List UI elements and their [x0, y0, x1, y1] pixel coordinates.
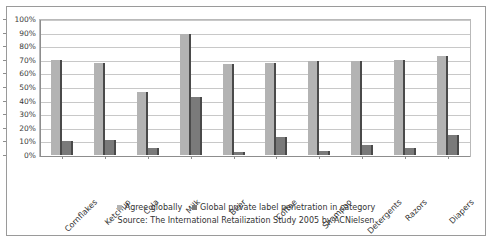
y-axis-tick-label: 60%	[6, 70, 36, 77]
bar-group	[351, 21, 373, 155]
legend-swatch-series2	[192, 205, 197, 210]
y-axis-tick-mark	[3, 73, 6, 74]
bar-shadow-edge	[243, 152, 245, 155]
bar-group	[394, 21, 416, 155]
bar-beer-series2	[234, 152, 245, 155]
bar-shadow-edge	[371, 145, 373, 155]
bar-milk-series2	[191, 97, 202, 155]
y-axis-tick-mark	[3, 87, 6, 88]
bar-cornflakes-series1	[51, 60, 62, 155]
plot-area-wrapper: 100%90%80%70%60%50%40%30%20%10%0%	[39, 19, 471, 157]
bar-face	[394, 60, 403, 155]
y-axis-tick-label: 40%	[6, 98, 36, 105]
bar-group	[180, 21, 202, 155]
bar-coffee-series2	[276, 137, 287, 155]
legend-item: Global private label penetration in cate…	[192, 203, 375, 212]
bar-milk-series1	[180, 34, 191, 155]
bar-face	[308, 61, 317, 155]
legend-item: Agree globally	[117, 203, 182, 212]
plot-area	[39, 19, 471, 157]
bar-shadow-edge	[285, 137, 287, 155]
y-axis-tick-label: 10%	[6, 138, 36, 145]
bar-group	[94, 21, 116, 155]
bar-shadow-edge	[114, 140, 116, 155]
bar-shadow-edge	[317, 61, 319, 155]
bar-shadow-edge	[71, 141, 73, 155]
bar-detergents-series2	[362, 145, 373, 155]
bars-group	[41, 21, 469, 155]
bar-group	[51, 21, 73, 155]
bar-face	[234, 152, 243, 155]
bar-group	[265, 21, 287, 155]
y-axis-tick-mark	[3, 128, 6, 129]
bar-diapers-series1	[437, 56, 448, 155]
bar-face	[362, 145, 371, 155]
y-axis-tick-label: 70%	[6, 57, 36, 64]
bar-face	[448, 135, 457, 155]
y-axis-tick-mark	[3, 60, 6, 61]
bar-shadow-edge	[360, 61, 362, 155]
bar-shampoo-series2	[319, 151, 330, 155]
bar-face	[265, 63, 274, 155]
legend-label: Global private label penetration in cate…	[200, 203, 375, 212]
legend-swatch-series1	[117, 205, 122, 210]
y-axis-tick-label: 20%	[6, 125, 36, 132]
y-axis-tick-mark	[3, 155, 6, 156]
bar-razors-series1	[394, 60, 405, 155]
bar-cola-series1	[137, 92, 148, 155]
bar-face	[51, 60, 60, 155]
bar-face	[180, 34, 189, 155]
bar-coffee-series1	[265, 63, 276, 155]
y-axis-tick-label: 100%	[6, 16, 36, 23]
bar-face	[105, 140, 114, 155]
bar-face	[137, 92, 146, 155]
source-note: Source: The International Retailization …	[7, 216, 485, 225]
x-axis-tick-labels: CornflakesKetchupColaMilkBeerCoffeeShamp…	[39, 158, 471, 204]
y-axis-tick-label: 30%	[6, 111, 36, 118]
bar-face	[405, 148, 414, 155]
bar-group	[137, 21, 159, 155]
y-axis-tick-label: 50%	[6, 84, 36, 91]
bar-cornflakes-series2	[62, 141, 73, 155]
bar-group	[437, 21, 459, 155]
bar-detergents-series1	[351, 61, 362, 155]
chart-legend: Agree globallyGlobal private label penet…	[7, 203, 485, 212]
bar-face	[62, 141, 71, 155]
y-axis-tick-mark	[3, 114, 6, 115]
bar-shampoo-series1	[308, 61, 319, 155]
bar-ketchup-series1	[94, 63, 105, 155]
bar-cola-series2	[148, 148, 159, 155]
bar-shadow-edge	[146, 92, 148, 155]
bar-shadow-edge	[200, 97, 202, 155]
bar-shadow-edge	[457, 135, 459, 155]
y-axis-tick-label: 80%	[6, 43, 36, 50]
bar-face	[319, 151, 328, 155]
y-axis-tick-mark	[3, 141, 6, 142]
bar-shadow-edge	[232, 64, 234, 155]
bar-shadow-edge	[157, 148, 159, 155]
bar-face	[351, 61, 360, 155]
bar-beer-series1	[223, 64, 234, 155]
bar-ketchup-series2	[105, 140, 116, 155]
legend-label: Agree globally	[125, 203, 182, 212]
bar-razors-series2	[405, 148, 416, 155]
y-axis-tick-label: 0%	[6, 152, 36, 159]
bar-shadow-edge	[403, 60, 405, 155]
bar-face	[191, 97, 200, 155]
bar-face	[148, 148, 157, 155]
bar-face	[437, 56, 446, 155]
bar-diapers-series2	[448, 135, 459, 155]
bar-group	[308, 21, 330, 155]
bar-shadow-edge	[414, 148, 416, 155]
y-axis-tick-mark	[3, 33, 6, 34]
y-axis-tick-mark	[3, 19, 6, 20]
bar-face	[276, 137, 285, 155]
bar-shadow-edge	[328, 151, 330, 155]
bar-face	[223, 64, 232, 155]
y-axis-tick-label: 90%	[6, 30, 36, 37]
chart-frame: 100%90%80%70%60%50%40%30%20%10%0% Cornfl…	[6, 6, 486, 236]
y-axis-tick-mark	[3, 101, 6, 102]
bar-group	[223, 21, 245, 155]
y-axis-tick-mark	[3, 46, 6, 47]
bar-face	[94, 63, 103, 155]
